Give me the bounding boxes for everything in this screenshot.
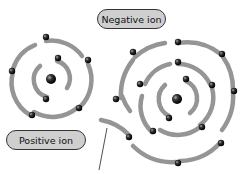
leader-line — [99, 128, 107, 170]
positive-ion-nucleus — [46, 74, 56, 84]
negative-ion-nucleus — [172, 94, 182, 104]
positive-ion-label: Positive ion — [6, 130, 86, 150]
negative-ion-label: Negative ion — [97, 9, 166, 29]
